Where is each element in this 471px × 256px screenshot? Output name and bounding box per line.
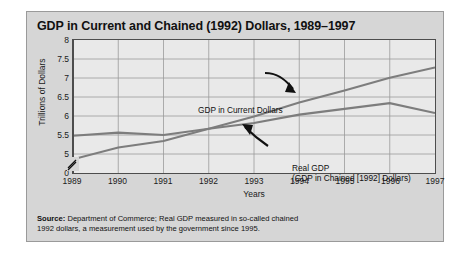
y-tick-75: 7.5 [57,54,69,64]
annotation-current-dollars: GDP in Current Dollars [198,105,283,115]
annotation-real-gdp-line2: (GDP in Chained [1992] Dollars) [292,173,411,183]
chart-figure: GDP in Current and Chained (1992) Dollar… [26,11,444,242]
source-text-line2: 1992 dollars, a measurement used by the … [37,224,435,234]
plot-wrapper: 8 7.5 7 6.5 6 5.5 5 0 Trillions of Dolla… [44,39,436,185]
source-note: Source: Department of Commerce; Real GDP… [37,214,435,234]
y-axis-break-icon [67,157,79,171]
x-tick-1991: 1991 [154,176,173,186]
source-label: Source: [37,214,65,223]
plot-left-axis [72,39,74,174]
y-tick-55: 5.5 [57,130,69,140]
y-tick-65: 6.5 [57,92,69,102]
annotation-real-gdp-line1: Real GDP [292,163,329,173]
y-tick-7: 7 [64,73,69,83]
y-tick-6: 6 [64,111,69,121]
chart-title: GDP in Current and Chained (1992) Dollar… [37,19,437,33]
source-text-line1: Department of Commerce; Real GDP measure… [67,214,298,223]
x-tick-1989: 1989 [63,176,82,186]
x-tick-1992: 1992 [199,176,218,186]
y-tick-8: 8 [64,35,69,45]
y-axis-label: Trillions of Dollars [37,32,47,152]
x-tick-1997: 1997 [426,176,445,186]
x-tick-1990: 1990 [108,176,127,186]
y-axis-ticks: 8 7.5 7 6.5 6 5.5 5 0 [44,39,69,185]
annotation-arrow-current [265,73,296,93]
x-axis-label: Years [72,189,436,199]
x-tick-1993: 1993 [245,176,264,186]
